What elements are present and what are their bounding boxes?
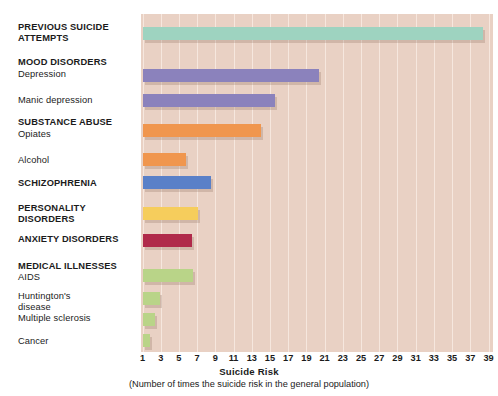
bar-previous-suicide-attempts[interactable] — [143, 27, 484, 40]
x-tick-label: 5 — [176, 352, 181, 364]
x-tick-label: 9 — [213, 352, 218, 364]
x-tick-label: 33 — [429, 352, 439, 364]
bar-opiates[interactable] — [143, 124, 261, 137]
category-label: Manic depression — [18, 95, 142, 106]
gridline — [288, 14, 289, 352]
category-label: ANXIETY DISORDERS — [18, 234, 142, 245]
x-tick-label: 11 — [229, 352, 239, 364]
bar-multiple-sclerosis[interactable] — [143, 313, 156, 326]
x-tick-label: 27 — [374, 352, 384, 364]
category-label: Depression — [18, 69, 142, 80]
x-tick-label: 29 — [392, 352, 402, 364]
gridline — [270, 14, 271, 352]
gridline — [306, 14, 307, 352]
category-label: Huntington's disease — [18, 291, 142, 312]
category-label: Cancer — [18, 336, 142, 347]
category-label: Alcohol — [18, 155, 142, 166]
gridline — [252, 14, 253, 352]
gridline — [416, 14, 417, 352]
x-tick-label: 21 — [319, 352, 329, 364]
bar-anxiety-disorders[interactable] — [143, 234, 192, 247]
x-tick-label: 37 — [465, 352, 475, 364]
category-label: PREVIOUS SUICIDE ATTEMPTS — [18, 22, 142, 43]
category-label: PERSONALITY DISORDERS — [18, 203, 142, 224]
category-label: Multiple sclerosis — [18, 313, 142, 324]
gridline — [489, 14, 490, 352]
x-tick-label: 17 — [283, 352, 293, 364]
bar-alcohol[interactable] — [143, 153, 187, 166]
bar-personality-disorders[interactable] — [143, 207, 199, 220]
gridline — [325, 14, 326, 352]
x-tick-label: 7 — [195, 352, 200, 364]
bar-schizophrenia[interactable] — [143, 176, 211, 189]
gridline — [470, 14, 471, 352]
plot-area — [141, 14, 493, 352]
x-tick-label: 1 — [140, 352, 145, 364]
category-label: Opiates — [18, 129, 142, 140]
suicide-risk-bar-chart: PREVIOUS SUICIDE ATTEMPTSMOOD DISORDERSD… — [0, 0, 498, 396]
x-axis-caption: (Number of times the suicide risk in the… — [0, 379, 498, 389]
bar-cancer[interactable] — [143, 334, 150, 347]
x-tick-label: 39 — [483, 352, 493, 364]
gridline — [379, 14, 380, 352]
x-tick-label: 25 — [356, 352, 366, 364]
bar-huntingtons-disease[interactable] — [143, 292, 160, 305]
gridline — [343, 14, 344, 352]
category-label: AIDS — [18, 272, 142, 283]
x-tick-label: 3 — [158, 352, 163, 364]
category-label-column: PREVIOUS SUICIDE ATTEMPTSMOOD DISORDERSD… — [0, 0, 141, 352]
x-tick-label: 31 — [411, 352, 421, 364]
gridline — [397, 14, 398, 352]
x-axis-tick-labels: 13579111315171921232527293133353739 — [141, 352, 493, 366]
gridline — [452, 14, 453, 352]
gridline — [434, 14, 435, 352]
bar-manic-depression[interactable] — [143, 94, 275, 107]
bar-aids[interactable] — [143, 269, 194, 282]
x-axis-title: Suicide Risk — [0, 366, 498, 377]
gridline — [234, 14, 235, 352]
x-tick-label: 13 — [247, 352, 257, 364]
bar-depression[interactable] — [143, 69, 320, 82]
gridline — [361, 14, 362, 352]
category-label: MOOD DISORDERS — [18, 57, 142, 68]
x-tick-label: 19 — [301, 352, 311, 364]
x-tick-label: 15 — [265, 352, 275, 364]
category-label: SCHIZOPHRENIA — [18, 178, 142, 189]
category-label: MEDICAL ILLNESSES — [18, 261, 142, 272]
category-label: SUBSTANCE ABUSE — [18, 117, 142, 128]
gridline — [215, 14, 216, 352]
x-tick-label: 35 — [447, 352, 457, 364]
x-tick-label: 23 — [338, 352, 348, 364]
